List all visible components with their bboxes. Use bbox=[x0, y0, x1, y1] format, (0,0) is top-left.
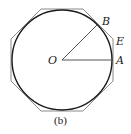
point-label-o: O bbox=[48, 54, 57, 67]
point-label-b: B bbox=[101, 15, 110, 28]
point-label-e: E bbox=[115, 35, 124, 48]
point-label-a: A bbox=[115, 54, 124, 67]
figure-caption: (b) bbox=[54, 114, 67, 127]
segment-ob bbox=[62, 25, 97, 60]
geometry-diagram: O A B E (b) bbox=[0, 0, 131, 134]
